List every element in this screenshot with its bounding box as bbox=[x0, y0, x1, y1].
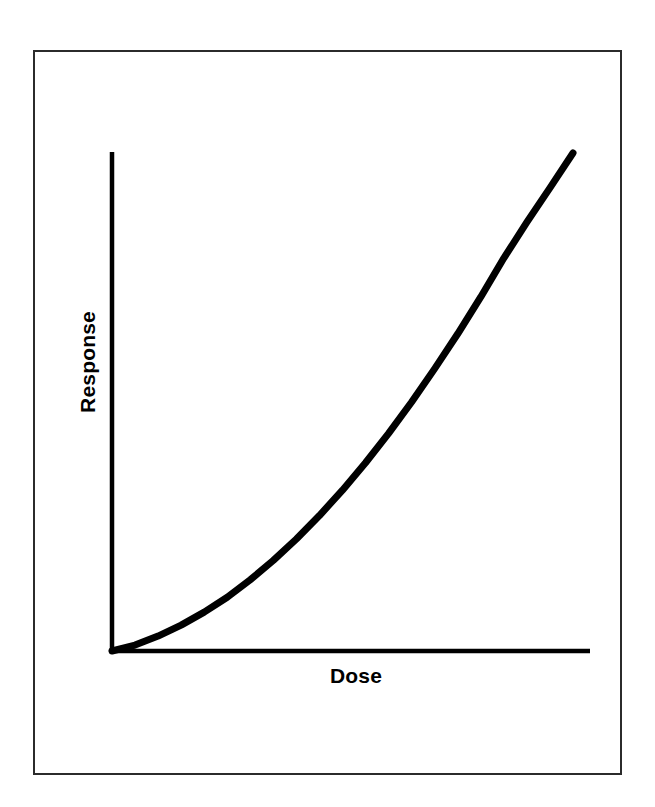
x-axis-title: Dose bbox=[330, 664, 382, 688]
figure-page: Response Dose bbox=[0, 0, 655, 807]
dose-response-curve bbox=[112, 153, 573, 651]
y-axis-title: Response bbox=[76, 311, 100, 413]
